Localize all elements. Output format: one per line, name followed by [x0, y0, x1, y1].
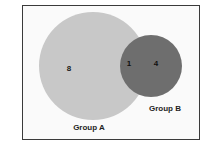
label-group-b: Group B: [149, 105, 181, 113]
count-group-a-only: 8: [67, 65, 71, 73]
venn-diagram-svg: [23, 6, 199, 139]
label-group-a: Group A: [73, 124, 105, 132]
count-intersection: 1: [127, 60, 131, 68]
diagram-frame: 8 1 4 Group A Group B: [22, 5, 200, 140]
count-group-b-only: 4: [154, 60, 158, 68]
figure-canvas: 8 1 4 Group A Group B: [0, 0, 209, 148]
